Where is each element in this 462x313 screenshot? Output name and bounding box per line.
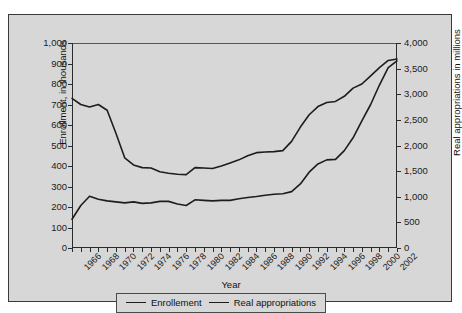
x-axis-tick-mark <box>344 248 345 252</box>
y-axis-right-tick-label: 500 <box>404 217 420 227</box>
y-axis-left-tick-label: 400 <box>27 161 67 171</box>
y-axis-right-title: Real appropriations in millions <box>451 0 462 188</box>
x-axis-tick-label: 1978 <box>187 251 208 272</box>
y-axis-left-tick-label: 700 <box>27 100 67 110</box>
y-axis-right-tick-mark <box>397 43 401 44</box>
x-axis-tick-label: 1994 <box>328 251 349 272</box>
y-axis-right-tick-label: 3,000 <box>404 89 428 99</box>
x-axis-tick-label: 1996 <box>345 251 366 272</box>
x-axis-tick-mark <box>230 248 231 252</box>
y-axis-right-tick-label: 2,000 <box>404 141 428 151</box>
x-axis-tick-mark <box>379 248 380 252</box>
x-axis-tick-mark <box>116 248 117 252</box>
x-axis-tick-mark <box>336 248 337 252</box>
x-axis-tick-mark <box>327 248 328 252</box>
x-axis-tick-label: 1988 <box>275 251 296 272</box>
x-axis-tick-mark <box>90 248 91 252</box>
y-axis-right-tick-mark <box>397 171 401 172</box>
y-axis-right-tick-mark <box>397 146 401 147</box>
x-axis-tick-mark <box>151 248 152 252</box>
y-axis-right-tick-mark <box>397 69 401 70</box>
x-axis-tick-mark <box>107 248 108 252</box>
x-axis-tick-label: 2002 <box>398 251 419 272</box>
x-axis-tick-mark <box>169 248 170 252</box>
legend-line-appropriations-icon <box>209 302 229 303</box>
legend-item-enrollment: Enrollement <box>126 297 202 308</box>
y-axis-left-tick-label: 500 <box>27 141 67 151</box>
x-axis-tick-mark <box>177 248 178 252</box>
x-axis-tick-mark <box>265 248 266 252</box>
x-axis-tick-label: 2000 <box>381 251 402 272</box>
y-axis-right-tick-label: 3,500 <box>404 64 428 74</box>
x-axis-tick-mark <box>371 248 372 252</box>
legend-label-appropriations: Real appropriations <box>234 297 316 308</box>
y-axis-right-tick-mark <box>397 197 401 198</box>
x-axis-tick-mark <box>72 248 73 252</box>
x-axis-tick-label: 1982 <box>222 251 243 272</box>
x-axis-tick-mark <box>195 248 196 252</box>
y-axis-left-tick-label: 200 <box>27 202 67 212</box>
x-axis-tick-label: 1984 <box>240 251 261 272</box>
x-axis-tick-mark <box>213 248 214 252</box>
x-axis-tick-label: 1976 <box>170 251 191 272</box>
y-axis-right-tick-label: 0 <box>404 243 409 253</box>
x-axis-tick-mark <box>98 248 99 252</box>
y-axis-right-tick-mark <box>397 94 401 95</box>
x-axis-tick-mark <box>133 248 134 252</box>
x-axis-tick-label: 1998 <box>363 251 384 272</box>
x-axis-tick-mark <box>388 248 389 252</box>
y-axis-left-tick-label: 800 <box>27 79 67 89</box>
chart-legend: Enrollement Real appropriations <box>116 293 326 313</box>
x-axis-title: Year <box>9 279 453 290</box>
x-axis-tick-mark <box>353 248 354 252</box>
x-axis-tick-mark <box>125 248 126 252</box>
y-axis-left-tick-label: 100 <box>27 223 67 233</box>
x-axis-tick-mark <box>239 248 240 252</box>
x-axis-tick-label: 1990 <box>293 251 314 272</box>
x-axis-tick-mark <box>186 248 187 252</box>
legend-line-enrollment-icon <box>126 302 146 303</box>
chart-frame: Enrollment, in thousands Real appropriat… <box>8 14 452 302</box>
x-axis-tick-label: 1972 <box>135 251 156 272</box>
series-line-real-appropriations <box>72 61 397 219</box>
x-axis-tick-mark <box>221 248 222 252</box>
x-axis-tick-mark <box>283 248 284 252</box>
x-axis-tick-label: 1968 <box>99 251 120 272</box>
series-line-enrollement <box>72 59 397 175</box>
x-axis-tick-mark <box>292 248 293 252</box>
y-axis-left-tick-label: 1,000 <box>27 38 67 48</box>
x-axis-tick-mark <box>397 248 398 252</box>
x-axis-tick-label: 1992 <box>310 251 331 272</box>
y-axis-right-tick-mark <box>397 222 401 223</box>
x-axis-tick-label: 1986 <box>258 251 279 272</box>
x-axis-tick-label: 1980 <box>205 251 226 272</box>
y-axis-right-tick-label: 4,000 <box>404 38 428 48</box>
x-axis-tick-mark <box>248 248 249 252</box>
legend-label-enrollment: Enrollement <box>151 297 202 308</box>
x-axis-tick-mark <box>318 248 319 252</box>
x-axis-tick-mark <box>142 248 143 252</box>
y-axis-left-tick-label: 0 <box>27 243 67 253</box>
x-axis-tick-mark <box>204 248 205 252</box>
x-axis-tick-mark <box>309 248 310 252</box>
x-axis-tick-mark <box>256 248 257 252</box>
x-axis-tick-label: 1974 <box>152 251 173 272</box>
x-axis-tick-mark <box>81 248 82 252</box>
y-axis-right-tick-label: 1,000 <box>404 192 428 202</box>
x-axis-tick-mark <box>300 248 301 252</box>
x-axis-tick-label: 1966 <box>82 251 103 272</box>
y-axis-left-tick-label: 300 <box>27 182 67 192</box>
y-axis-left-tick-label: 900 <box>27 59 67 69</box>
y-axis-right-tick-label: 2,500 <box>404 115 428 125</box>
y-axis-right-tick-mark <box>397 120 401 121</box>
series-lines <box>72 43 397 248</box>
x-axis-tick-label: 1970 <box>117 251 138 272</box>
x-axis-tick-mark <box>362 248 363 252</box>
y-axis-left-tick-label: 600 <box>27 120 67 130</box>
x-axis-tick-mark <box>274 248 275 252</box>
legend-item-appropriations: Real appropriations <box>209 297 316 308</box>
y-axis-right-tick-label: 1,500 <box>404 166 428 176</box>
x-axis-tick-mark <box>160 248 161 252</box>
